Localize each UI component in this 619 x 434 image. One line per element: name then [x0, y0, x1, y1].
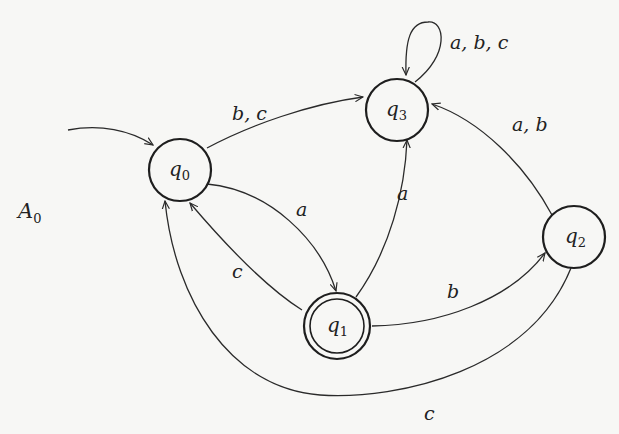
edge-label-q2-q3: a, b [512, 113, 548, 135]
edge-q2-q0 [165, 201, 571, 396]
edge-q1-q3 [356, 140, 407, 297]
state-q2: q2 [543, 206, 605, 268]
edge-label-q2-q0: c [424, 402, 435, 424]
state-q1-accepting: q1 [304, 293, 370, 359]
edge-q0-q3 [207, 97, 363, 148]
state-q3: q3 [366, 79, 428, 141]
edge-label-q1-q0: c [232, 260, 243, 282]
automaton-name-label: A0 [16, 199, 41, 226]
edge-label-q0-q3: b, c [232, 102, 267, 124]
edge-q3-q3-loop [406, 22, 441, 82]
edge-q0-q1 [207, 184, 336, 291]
state-q0: q0 [149, 139, 211, 201]
edge-label-q0-q1: a [296, 198, 307, 220]
edge-label-q3-loop: a, b, c [450, 31, 509, 53]
edge-label-q1-q2: b [447, 280, 459, 302]
edge-q1-q0 [190, 203, 302, 310]
automaton-diagram: A0 b, c a c a b a, b c a, b, c q0 q3 [0, 0, 619, 434]
initial-arrow [68, 128, 153, 145]
edge-label-q1-q3: a [397, 182, 408, 204]
